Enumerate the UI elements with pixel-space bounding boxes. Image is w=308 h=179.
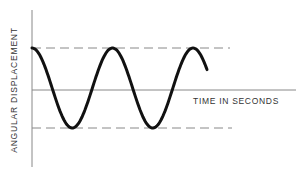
y-axis-label-text: ANGULAR DISPLACEMENT	[9, 27, 19, 153]
x-axis-label: TIME IN SECONDS	[193, 96, 279, 106]
oscillation-diagram: ANGULAR DISPLACEMENT TIME IN SECONDS	[0, 0, 308, 179]
waveform-curve	[32, 48, 207, 128]
y-axis-label: ANGULAR DISPLACEMENT	[4, 0, 24, 179]
